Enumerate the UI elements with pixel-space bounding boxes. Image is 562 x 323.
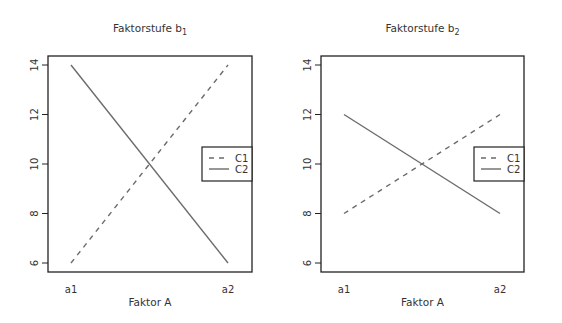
y-tick-label: 6 <box>29 260 40 266</box>
y-tick-label: 14 <box>29 59 40 72</box>
y-tick-label: 10 <box>29 158 40 171</box>
y-tick-label: 10 <box>302 158 313 171</box>
chart-title: Faktorstufe b1 <box>113 22 187 37</box>
x-tick-label: a2 <box>222 284 235 295</box>
y-tick-label: 12 <box>302 108 313 121</box>
legend-label-c1: C1 <box>507 153 520 164</box>
y-tick-label: 8 <box>302 210 313 216</box>
y-tick-label: 6 <box>302 260 313 266</box>
x-axis-title: Faktor A <box>129 296 173 308</box>
x-axis-title: Faktor A <box>401 296 445 308</box>
plot-panel-2: Faktorstufe b268101214a1a2Faktor AC1C2 <box>302 22 524 308</box>
legend: C1C2 <box>474 147 524 181</box>
legend-label-c2: C2 <box>235 164 248 175</box>
legend-label-c2: C2 <box>507 164 520 175</box>
chart-title: Faktorstufe b2 <box>386 22 460 37</box>
legend: C1C2 <box>202 147 252 181</box>
y-tick-label: 8 <box>29 210 40 216</box>
x-tick-label: a1 <box>338 284 351 295</box>
y-tick-label: 14 <box>302 59 313 72</box>
legend-label-c1: C1 <box>235 153 248 164</box>
y-tick-label: 12 <box>29 108 40 121</box>
x-tick-label: a2 <box>494 284 507 295</box>
x-tick-label: a1 <box>65 284 78 295</box>
plot-panel-1: Faktorstufe b168101214a1a2Faktor AC1C2 <box>29 22 252 308</box>
interaction-plots: Faktorstufe b168101214a1a2Faktor AC1C2Fa… <box>0 0 562 323</box>
